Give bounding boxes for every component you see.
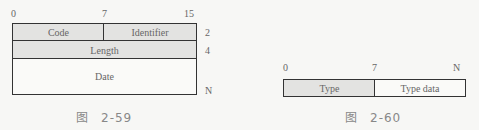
bit-label-0: 0	[11, 9, 16, 19]
byte-offset-4: 4	[205, 46, 210, 56]
caption-number: 2-59	[101, 111, 132, 125]
caption-prefix: 图	[345, 111, 358, 125]
field-code-label: Code	[48, 27, 69, 38]
bit-label-n: N	[453, 63, 460, 73]
field-type-label: Type	[320, 83, 340, 94]
field-date: Date	[12, 58, 197, 95]
caption-prefix: 图	[76, 111, 89, 125]
field-length-label: Length	[90, 45, 118, 56]
bit-label-15: 15	[184, 9, 194, 19]
field-type: Type	[283, 79, 376, 97]
caption-2-59: 图2-59	[76, 108, 132, 125]
byte-offset-n: N	[205, 86, 212, 96]
byte-offset-2: 2	[205, 28, 210, 38]
caption-number: 2-60	[370, 111, 401, 125]
bit-label-7: 7	[372, 63, 377, 73]
field-date-label: Date	[95, 71, 114, 82]
bit-label-0: 0	[283, 63, 288, 73]
bit-label-7: 7	[102, 9, 107, 19]
field-type-data: Type data	[374, 79, 466, 97]
field-type-data-label: Type data	[400, 83, 439, 94]
field-length: Length	[12, 40, 197, 60]
field-identifier-label: Identifier	[131, 27, 168, 38]
caption-2-60: 图2-60	[345, 108, 401, 125]
